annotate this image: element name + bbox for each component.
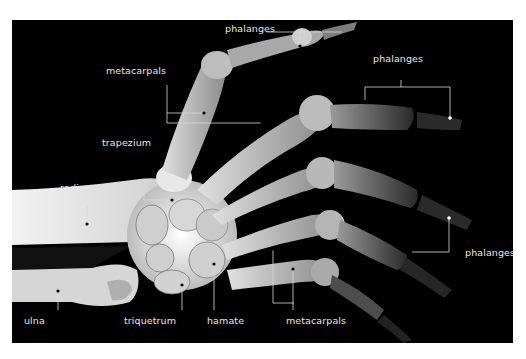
- label-trapezium: trapezium: [102, 137, 151, 148]
- label-phalanges-right-upper: phalanges: [373, 53, 423, 64]
- label-phalanges-right-lower: phalanges: [465, 247, 513, 258]
- label-ulna: ulna: [24, 315, 45, 326]
- xray-figure: phalanges metacarpals phalanges trapeziu…: [12, 20, 513, 343]
- label-triquetrum: triquetrum: [124, 315, 176, 326]
- hamate-bone: [189, 242, 225, 278]
- triquetrum-bone: [154, 270, 190, 294]
- label-metacarpals-top: metacarpals: [106, 65, 166, 76]
- label-radius: radius: [60, 182, 90, 193]
- label-metacarpals-bottom: metacarpals: [286, 315, 346, 326]
- label-hamate: hamate: [207, 315, 244, 326]
- label-phalanges-top: phalanges: [225, 23, 275, 34]
